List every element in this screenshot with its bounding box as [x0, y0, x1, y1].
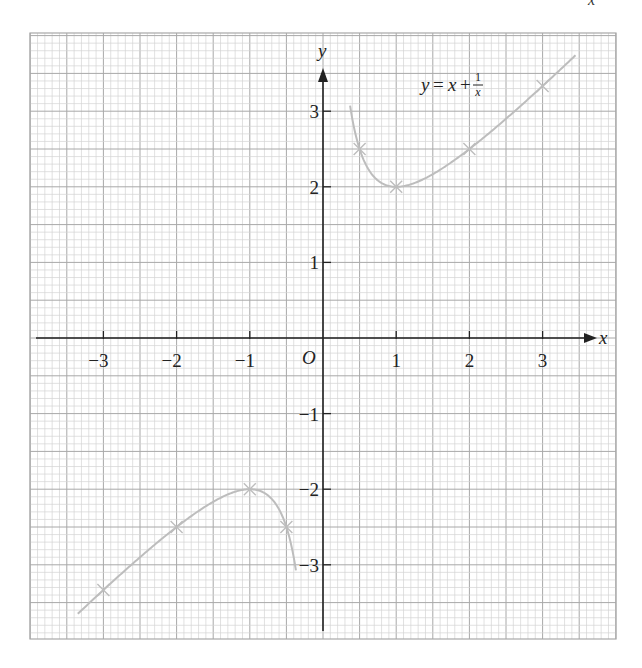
x-tick-label: 2: [465, 350, 475, 371]
x-axis-label: x: [598, 327, 608, 348]
graph-paper-chart: −3−2−1123−3−2−1123xyOy=x+1x: [0, 0, 642, 668]
equation-label: y=x+1x: [419, 70, 483, 99]
x-axis-arrow-icon: [584, 333, 597, 343]
x-tick-label: −3: [88, 350, 108, 371]
axes: [36, 68, 597, 631]
svg-text:+: +: [460, 74, 471, 95]
y-tick-label: −3: [299, 555, 319, 576]
svg-text:y: y: [419, 74, 430, 95]
x-tick-label: 3: [538, 350, 548, 371]
curves: [78, 55, 576, 614]
y-tick-label: 1: [310, 252, 320, 273]
y-tick-label: 3: [310, 101, 320, 122]
x-tick-label: −1: [235, 350, 255, 371]
svg-text:x: x: [447, 74, 457, 95]
y-tick-label: −2: [299, 479, 319, 500]
svg-text:1: 1: [475, 70, 481, 84]
x-tick-label: 1: [391, 350, 401, 371]
y-tick-label: −1: [299, 404, 319, 425]
y-axis-label: y: [316, 40, 327, 61]
svg-text:x: x: [474, 85, 481, 99]
y-axis-arrow-icon: [318, 68, 328, 82]
x-tick-label: −2: [161, 350, 181, 371]
y-tick-label: 2: [310, 177, 320, 198]
origin-label: O: [302, 347, 316, 368]
svg-text:=: =: [433, 74, 444, 95]
